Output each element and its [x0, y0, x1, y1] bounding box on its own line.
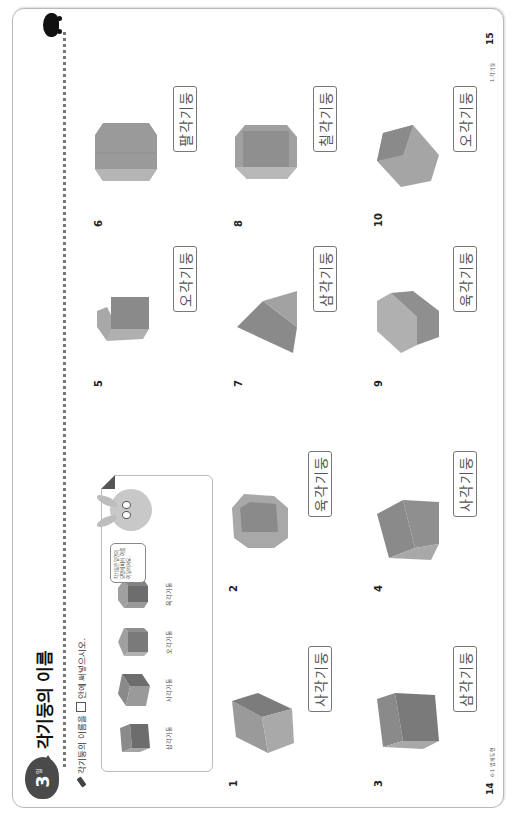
problem-5: 5 오각기둥 — [93, 207, 203, 387]
problem-3: 3 삼각기둥 — [373, 607, 483, 787]
hexagonal-prism-icon — [373, 287, 443, 357]
triangular-prism-icon — [373, 687, 443, 757]
heptagonal-prism-icon — [233, 117, 299, 187]
triangular-prism-icon — [116, 718, 152, 758]
day-suffix: 일 — [34, 768, 43, 774]
day-badge: 3 일 — [25, 757, 59, 799]
answer-box[interactable]: 팔각기둥 — [173, 86, 197, 152]
reference-item: 오각기둥 — [116, 617, 173, 667]
problem-4: 4 사각기둥 — [373, 412, 483, 592]
reference-label: 오각기둥 — [164, 617, 173, 667]
pencil-icon — [76, 776, 86, 787]
problem-8: 8 칠각기둥 — [233, 47, 343, 227]
canvas: 3 일 각기둥의 이름 각기둥의 이름을 안에 써넣으시오. — [0, 0, 513, 818]
octagonal-prism-icon — [93, 117, 159, 187]
problem-6: 6 팔각기둥 — [93, 47, 203, 227]
square-prism-icon — [116, 670, 152, 710]
day-number: 3 — [32, 775, 53, 788]
problem-number: 5 — [93, 380, 104, 387]
answer-box[interactable]: 육각기둥 — [308, 451, 332, 517]
footer-text-left: 6-1 입체도형 — [488, 747, 495, 777]
answer-box[interactable]: 삼각기둥 — [313, 246, 337, 312]
answer-box[interactable]: 사각기둥 — [453, 451, 477, 517]
answer-box[interactable]: 칠각기둥 — [313, 86, 337, 152]
answer-box[interactable]: 오각기둥 — [453, 86, 477, 152]
reference-label: 육각기둥 — [164, 569, 173, 619]
problem-number: 4 — [373, 585, 384, 592]
reference-item: 삼각기둥 — [116, 713, 173, 763]
page-fold-icon — [101, 475, 115, 489]
answer-box[interactable]: 사각기둥 — [308, 646, 332, 712]
page-title: 각기둥의 이름 — [31, 651, 56, 749]
problem-number: 6 — [93, 220, 104, 227]
answer-box[interactable]: 육각기둥 — [453, 246, 477, 312]
bunny-ear — [95, 493, 118, 510]
problem-number: 9 — [373, 380, 384, 387]
page-number-right: 15 — [485, 32, 495, 45]
mascot-icon — [43, 13, 59, 37]
instruction: 각기둥의 이름을 안에 써넣으시오. — [75, 638, 87, 787]
instruction-text-before: 각기둥의 이름을 — [75, 715, 87, 774]
problem-number: 8 — [233, 220, 244, 227]
footer-text-right: 1.각기둥 — [488, 62, 495, 82]
square-prism-icon — [228, 687, 298, 757]
answer-box[interactable]: 삼각기둥 — [453, 646, 477, 712]
reference-item: 사각기둥 — [116, 665, 173, 715]
blank-box-icon — [76, 702, 86, 712]
triangular-prism-icon — [233, 287, 303, 357]
page-sheet: 3 일 각기둥의 이름 각기둥의 이름을 안에 써넣으시오. — [12, 8, 504, 808]
speech-bubble: 각기둥은 밑면의 모양에 따라 이름이 달라져요. — [110, 543, 146, 583]
badge-tail — [43, 755, 53, 763]
workbook-spread: 3 일 각기둥의 이름 각기둥의 이름을 안에 써넣으시오. — [0, 0, 513, 818]
instruction-text-after: 안에 써넣으시오. — [75, 638, 87, 699]
reference-box: 삼각기둥 사각기둥 — [101, 475, 213, 772]
pentagonal-prism-icon — [93, 287, 153, 347]
pentagonal-prism-icon — [373, 121, 443, 191]
bunny-eye — [122, 501, 131, 509]
pentagonal-prism-icon — [116, 622, 152, 662]
problem-10: 10 오각기둥 — [373, 47, 483, 227]
dotted-divider — [63, 32, 66, 767]
problem-9: 9 육각기둥 — [373, 207, 483, 387]
problem-2: 2 육각기둥 — [228, 412, 338, 592]
problem-1: 1 사각기둥 — [228, 607, 338, 787]
problem-number: 10 — [373, 213, 384, 227]
answer-box[interactable]: 오각기둥 — [173, 246, 197, 312]
problem-number: 3 — [373, 780, 384, 787]
problem-number: 7 — [233, 380, 244, 387]
page-number-left: 14 — [485, 782, 495, 795]
problem-number: 2 — [228, 585, 239, 592]
reference-label: 사각기둥 — [164, 665, 173, 715]
bunny-ear — [95, 513, 118, 530]
reference-label: 삼각기둥 — [164, 713, 173, 763]
hexagonal-prism-icon — [228, 482, 298, 552]
problem-7: 7 삼각기둥 — [233, 207, 343, 387]
bunny-eye — [122, 511, 131, 519]
problem-number: 1 — [228, 780, 239, 787]
bunny-mascot-icon — [110, 489, 152, 531]
square-prism-icon — [373, 492, 443, 562]
